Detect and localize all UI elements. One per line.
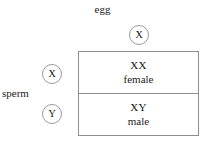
egg-axis-label: egg [0, 3, 205, 16]
gamete-circle-egg-x: X [129, 25, 149, 45]
punnett-cell-male: XY male [79, 94, 198, 136]
cell-genotype-xy: XY [130, 100, 146, 114]
gamete-circle-sperm-y: Y [42, 104, 62, 124]
gamete-circle-sperm-x: X [42, 64, 62, 84]
punnett-square-grid: XX female XY male [78, 51, 199, 136]
cell-genotype-xx: XX [130, 58, 146, 72]
cell-phenotype-male: male [128, 114, 149, 128]
punnett-square-diagram: egg X sperm X Y XX female XY male [0, 0, 205, 142]
cell-phenotype-female: female [124, 72, 154, 86]
punnett-cell-female: XX female [79, 52, 198, 94]
sperm-axis-label: sperm [2, 87, 46, 100]
